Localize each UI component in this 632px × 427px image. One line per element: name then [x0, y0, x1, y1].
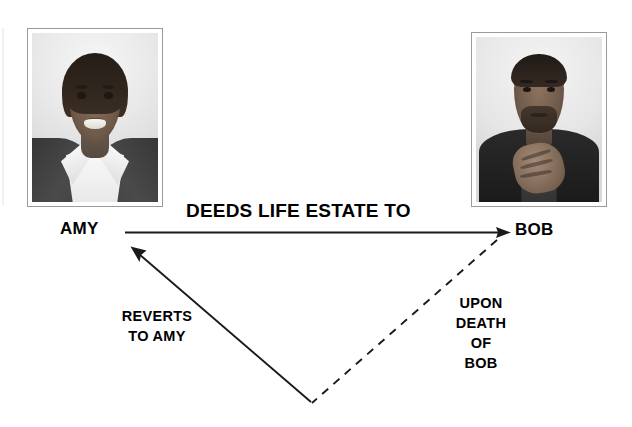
portrait-illustration-amy — [32, 33, 158, 202]
diagram-canvas: AMY BOB DEEDS LIFE ESTATE TO REVERTS TO … — [0, 0, 632, 427]
edge-label-deeds-life-estate-to: DEEDS LIFE ESTATE TO — [186, 200, 411, 222]
portrait-photo-bob — [471, 32, 607, 207]
edge-label-upon-death-of-bob: UPON DEATH OF BOB — [452, 293, 510, 373]
edge-label-reverts-to-amy: REVERTS TO AMY — [118, 306, 196, 346]
edge-label-reverts-line1: REVERTS — [118, 306, 196, 326]
edge-label-upon-line3: OF BOB — [452, 333, 510, 373]
node-label-amy: AMY — [60, 219, 99, 239]
edge-label-upon-line2: DEATH — [452, 313, 510, 333]
portrait-illustration-bob — [476, 37, 602, 202]
edge-label-reverts-line2: TO AMY — [118, 326, 196, 346]
portrait-photo-amy — [27, 28, 163, 207]
node-label-bob: BOB — [515, 220, 554, 240]
portrait-photo-amy-inner — [32, 33, 158, 202]
portrait-photo-bob-inner — [476, 37, 602, 202]
edge-label-upon-line1: UPON — [452, 293, 510, 313]
